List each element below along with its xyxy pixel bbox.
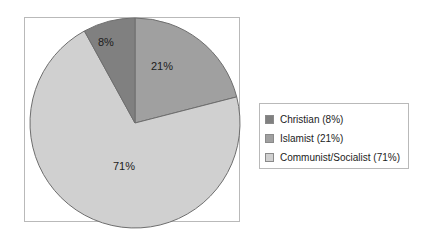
legend-item-communist[interactable]: Communist/Socialist (71%) xyxy=(265,148,408,166)
legend-swatch-communist xyxy=(265,153,274,162)
legend-swatch-christian xyxy=(265,115,274,124)
legend-label-communist: Communist/Socialist (71%) xyxy=(280,152,400,163)
pie-slices xyxy=(30,18,240,228)
legend-label-islamist: Islamist (21%) xyxy=(280,133,343,144)
pie-label-islamist: 21% xyxy=(151,60,173,72)
chart-legend: Christian (8%) Islamist (21%) Communist/… xyxy=(259,103,409,169)
legend-label-christian: Christian (8%) xyxy=(280,114,343,125)
legend-swatch-islamist xyxy=(265,134,274,143)
legend-item-islamist[interactable]: Islamist (21%) xyxy=(265,129,408,147)
legend-item-christian[interactable]: Christian (8%) xyxy=(265,110,408,128)
pie-chart xyxy=(24,17,240,222)
pie-label-communist: 71% xyxy=(113,160,135,172)
pie-label-christian: 8% xyxy=(98,36,114,48)
chart-canvas: 8% 21% 71% Christian (8%) Islamist (21%)… xyxy=(0,0,433,233)
